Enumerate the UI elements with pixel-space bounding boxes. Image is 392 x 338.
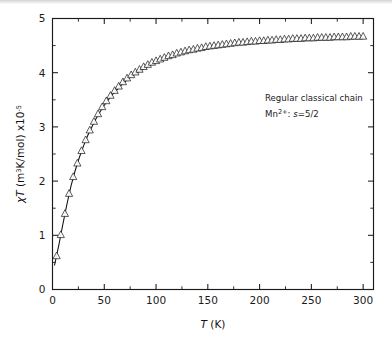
y-tick-label: 3: [39, 121, 46, 133]
data-marker-triangle: [61, 210, 68, 217]
x-axis-title: T (K): [201, 318, 226, 330]
x-tick-label: 50: [98, 294, 111, 306]
y-axis-title-unit: (m: [14, 173, 26, 191]
data-marker-triangle: [78, 147, 85, 154]
y-axis-ticks: [53, 19, 374, 290]
annotation-spin-value: =5/2: [298, 109, 319, 119]
x-axis-title-unit: (K): [207, 318, 225, 330]
y-tick-label: 2: [39, 175, 46, 187]
x-tick-label: 250: [301, 294, 321, 306]
x-axis-tick-labels: 050100150200250300: [49, 294, 373, 306]
y-tick-label: 5: [39, 12, 46, 24]
data-marker-triangle: [57, 231, 64, 238]
data-marker-triangle: [65, 190, 72, 197]
y-axis-title: χT (m3K/mol) x10-5: [14, 105, 26, 204]
annotation-ion-charge: 2+: [278, 108, 288, 116]
y-tick-label: 1: [39, 229, 46, 241]
y-axis-title-unit-rest: K/mol) x10: [14, 112, 26, 169]
plot-frame: [53, 19, 374, 290]
figure-chi-t-vs-temperature: 050100150200250300 012345 T (K) χT (m3K/…: [0, 0, 392, 338]
data-marker-triangle: [53, 252, 60, 259]
x-tick-label: 150: [198, 294, 218, 306]
y-tick-label: 0: [39, 283, 46, 295]
theoretical-fit-line: [55, 38, 366, 265]
y-tick-label: 4: [39, 67, 46, 79]
annotation-line-1: Regular classical chain: [265, 93, 363, 103]
y-axis-title-scale-exponent: -5: [15, 105, 23, 112]
annotation-ion-symbol: Mn: [265, 109, 278, 119]
x-axis-ticks: [53, 19, 364, 290]
data-marker-triangle: [74, 159, 81, 166]
x-tick-label: 200: [250, 294, 270, 306]
data-marker-triangle: [70, 173, 77, 180]
chart-canvas: 050100150200250300 012345 T (K) χT (m3K/…: [0, 0, 392, 338]
data-marker-triangle: [86, 126, 93, 133]
y-axis-tick-labels: 012345: [39, 12, 46, 295]
x-tick-label: 300: [353, 294, 373, 306]
x-tick-label: 0: [49, 294, 56, 306]
annotation-line-2: Mn2+: s=5/2: [265, 108, 319, 119]
x-tick-label: 100: [146, 294, 166, 306]
data-point-markers: [53, 32, 367, 258]
data-marker-triangle: [82, 136, 89, 143]
